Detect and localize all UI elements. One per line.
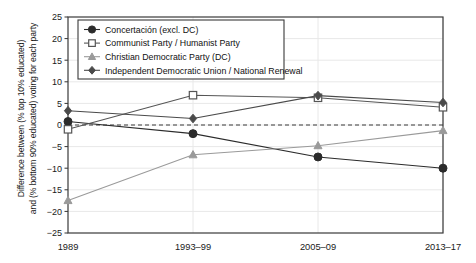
data-point-s0-x1 <box>189 130 197 138</box>
legend-label-3: Independent Democratic Union / National … <box>105 66 303 76</box>
x-axis-ticks: 19891993–992005–092013–17 <box>58 242 461 252</box>
legend-label-1: Communist Party / Humanist Party <box>105 38 241 48</box>
legend-marker-0 <box>88 26 95 33</box>
legend-marker-1 <box>89 40 96 47</box>
x-tick-label-3: 2013–17 <box>425 242 461 252</box>
x-tick-label-1: 1993–99 <box>175 242 211 252</box>
y-tick-label: 5 <box>57 99 62 109</box>
data-point-s3-x1 <box>189 114 196 123</box>
legend-label-2: Christian Democratic Party (DC) <box>105 52 231 62</box>
y-tick-label: −25 <box>47 228 62 238</box>
series-markers <box>64 91 447 203</box>
series-line-1 <box>68 95 443 129</box>
series-lines <box>68 95 443 200</box>
data-point-s0-x2 <box>314 153 322 161</box>
y-tick-label: 10 <box>52 77 62 87</box>
data-point-s2-x3 <box>439 126 447 133</box>
series-line-3 <box>68 96 443 119</box>
x-tick-label-2: 2005–09 <box>300 242 336 252</box>
data-point-s0-x3 <box>439 164 447 172</box>
y-tick-label: −5 <box>52 142 62 152</box>
plot-area: 2520151050−5−10−15−20−25 19891993–992005… <box>0 0 476 263</box>
y-tick-label: 25 <box>52 12 62 22</box>
y-tick-label: −10 <box>47 164 62 174</box>
data-point-s0-x0 <box>64 118 72 126</box>
y-tick-label: 0 <box>57 120 62 130</box>
chart-figure: Difference between (% top 10% educated) … <box>0 0 476 263</box>
y-tick-label: −20 <box>47 207 62 217</box>
x-tick-label-0: 1989 <box>58 242 79 252</box>
data-point-s1-x1 <box>189 91 196 98</box>
chart-legend: Concertación (excl. DC)Communist Party /… <box>78 20 303 79</box>
y-tick-label: 15 <box>52 56 62 66</box>
data-point-s1-x0 <box>64 126 71 133</box>
series-line-0 <box>68 122 443 169</box>
data-point-s3-x0 <box>64 106 71 115</box>
legend-label-0: Concertación (excl. DC) <box>105 25 198 35</box>
y-tick-label: 20 <box>52 34 62 44</box>
y-tick-label: −15 <box>47 185 62 195</box>
